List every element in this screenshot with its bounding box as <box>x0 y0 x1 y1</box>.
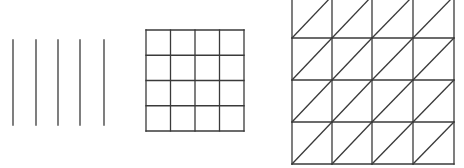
square-grid-figure <box>146 30 244 131</box>
tri-grid-diagonal-line <box>372 38 413 80</box>
parallel-lines-figure <box>13 40 104 125</box>
tri-grid-diagonal-line <box>372 122 413 164</box>
tri-grid-diagonal-line <box>413 122 454 164</box>
tri-grid-diagonal-line <box>372 0 413 38</box>
tri-grid-diagonal-line <box>292 38 332 80</box>
tri-grid-diagonal-line <box>413 80 454 122</box>
diagram-canvas <box>0 0 464 168</box>
tri-grid-diagonal-line <box>413 0 454 38</box>
triangulated-grid-figure <box>292 0 454 164</box>
tri-grid-diagonal-line <box>292 80 332 122</box>
tri-grid-diagonal-line <box>332 0 372 38</box>
tri-grid-diagonal-line <box>332 38 372 80</box>
tri-grid-diagonal-line <box>332 122 372 164</box>
tri-grid-diagonal-line <box>292 122 332 164</box>
tri-grid-diagonal-line <box>292 0 332 38</box>
tri-grid-diagonal-line <box>413 38 454 80</box>
tri-grid-diagonal-line <box>372 80 413 122</box>
tri-grid-diagonal-line <box>332 80 372 122</box>
